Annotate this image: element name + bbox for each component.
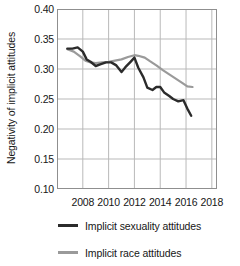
x-tick-label: 2018 bbox=[201, 196, 224, 208]
x-tick-label: 2008 bbox=[72, 196, 95, 208]
y-tick-label: 0.15 bbox=[20, 153, 54, 165]
x-tick-label: 2010 bbox=[97, 196, 120, 208]
y-tick-label: 0.30 bbox=[20, 63, 54, 75]
chart-container: Negativity of implicit attitudes 0.100.1… bbox=[0, 0, 240, 266]
y-axis-title-label: Negativity of implicit attitudes bbox=[5, 32, 17, 164]
plot-svg bbox=[57, 9, 217, 189]
y-tick-label: 0.25 bbox=[20, 93, 54, 105]
series-line-race bbox=[67, 49, 192, 87]
legend-item-implicit-sexuality-attitudes: Implicit sexuality attitudes bbox=[0, 212, 240, 239]
plot-area bbox=[57, 9, 217, 189]
legend-swatch-race bbox=[58, 251, 78, 254]
x-tick-label: 2016 bbox=[175, 196, 198, 208]
legend-label-race: Implicit race attitudes bbox=[85, 247, 181, 259]
y-tick-label: 0.40 bbox=[20, 3, 54, 15]
y-axis-title: Negativity of implicit attitudes bbox=[0, 0, 22, 196]
chart-legend: Implicit sexuality attitudes Implicit ra… bbox=[0, 212, 240, 266]
legend-label-sexuality: Implicit sexuality attitudes bbox=[85, 220, 201, 232]
legend-item-implicit-race-attitudes: Implicit race attitudes bbox=[0, 239, 240, 266]
x-tick-label: 2012 bbox=[123, 196, 146, 208]
legend-swatch-sexuality bbox=[58, 224, 78, 227]
x-axis-tick-labels: 200820102012201420162018 bbox=[0, 190, 240, 212]
y-tick-label: 0.20 bbox=[20, 123, 54, 135]
y-axis-tick-labels: 0.100.150.200.250.300.350.40 bbox=[20, 0, 54, 200]
y-tick-label: 0.35 bbox=[20, 33, 54, 45]
x-tick-label: 2014 bbox=[149, 196, 172, 208]
